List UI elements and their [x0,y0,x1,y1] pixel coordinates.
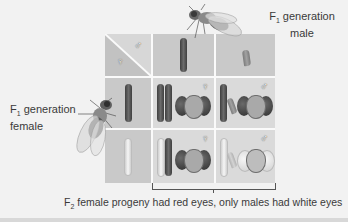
caption: F2 female progeny had red eyes, only mal… [64,196,342,210]
label-prefix: F [269,10,276,22]
y-chromosome [226,151,237,168]
grid-divider [105,128,275,130]
fly-head-white-eyes [237,147,273,173]
label-prefix: F [10,103,17,115]
fly-face [246,149,266,173]
female-fly-icon [72,96,120,158]
female-symbol-icon: ♀ [116,56,124,67]
f1-female-label: F1 generation female [10,103,76,132]
y-chromosome [226,97,237,114]
male-symbol-icon: ♂ [260,133,268,144]
male-fly-icon [183,4,245,48]
female-symbol-icon: ♀ [201,81,209,92]
offspring-cell-female-red: ♀ [153,78,214,128]
fly-face [184,149,204,173]
grid-divider [214,34,216,183]
fly-head-red-eyes [175,147,211,173]
x-chromosome-white [220,138,228,177]
corner-cell: ♀ ♂ [105,34,151,76]
x-chromosome-white [157,138,165,177]
x-chromosome-red [165,138,172,176]
caption-text: female progeny had red eyes, only males … [74,196,342,208]
offspring-bracket [152,183,276,190]
grid-divider [105,76,275,78]
offspring-cell-male-red: ♂ [216,78,275,128]
y-chromosome [242,50,251,67]
grid-divider [151,34,153,183]
male-symbol-icon: ♂ [260,81,268,92]
x-chromosome-red [220,84,227,122]
female-symbol-icon: ♀ [201,133,209,144]
male-symbol-icon: ♂ [134,40,142,51]
x-chromosome-red [165,84,172,122]
offspring-cell-male-white: ♂ [216,130,275,183]
x-chromosome-white [124,138,132,176]
offspring-cell-female-red-carrier: ♀ [153,130,214,183]
fly-head-red-eyes [175,93,211,119]
x-chromosome-red [157,84,164,122]
x-chromosome-red [125,84,132,122]
fly-face [246,95,266,119]
label-line1: generation [21,103,76,115]
punnett-square: ♀ ♂ ♀ ♂ [105,34,275,183]
corner-diagonal [105,34,151,76]
fly-head-red-eyes [237,93,273,119]
label-line1: generation [280,10,335,22]
label-line2: female [10,120,76,132]
bracket-tick [213,189,214,193]
bottom-border [0,218,348,222]
fly-face [184,95,204,119]
